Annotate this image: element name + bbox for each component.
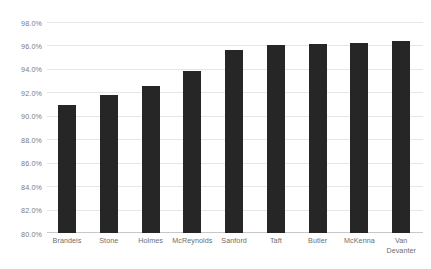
y-tick-label: 82.0% — [2, 206, 42, 215]
bar-slot — [298, 22, 338, 233]
x-tick-line2: Devanter — [373, 246, 429, 256]
bar-taft[interactable] — [267, 45, 285, 233]
y-tick-label: 86.0% — [2, 159, 42, 168]
bar-slot — [381, 22, 421, 233]
bar-slot — [172, 22, 212, 233]
x-tick-line1: McKenna — [344, 236, 375, 245]
y-tick-label: 84.0% — [2, 183, 42, 192]
bar-stone[interactable] — [100, 95, 118, 233]
bar-slot — [89, 22, 129, 233]
bar-slot — [47, 22, 87, 233]
x-tick-line1: Taft — [270, 236, 282, 245]
x-tick-line1: Sanford — [221, 236, 247, 245]
bar-slot — [131, 22, 171, 233]
x-tick-line1: Stone — [99, 236, 118, 245]
y-tick-label: 94.0% — [2, 65, 42, 74]
bar-slot — [256, 22, 296, 233]
x-tick-line1: Holmes — [138, 236, 163, 245]
bar-brandeis[interactable] — [58, 105, 76, 233]
x-tick-line1: Butler — [308, 236, 327, 245]
y-tick-label: 98.0% — [2, 19, 42, 28]
bar-slot — [214, 22, 254, 233]
x-axis: Brandeis Stone Holmes McReynolds Sanford… — [47, 236, 423, 269]
bar-chart: 98.0% 96.0% 94.0% 92.0% 90.0% 88.0% 86.0… — [0, 0, 431, 269]
y-tick-label: 88.0% — [2, 136, 42, 145]
x-tick-line1: Van — [395, 236, 407, 245]
y-tick-label: 96.0% — [2, 42, 42, 51]
bar-holmes[interactable] — [142, 86, 160, 233]
x-tick-line1: Brandeis — [53, 236, 82, 245]
y-tick-label: 90.0% — [2, 112, 42, 121]
y-tick-label: 92.0% — [2, 89, 42, 98]
bars-layer — [47, 22, 423, 233]
bar-slot — [339, 22, 379, 233]
bar-sanford[interactable] — [225, 50, 243, 233]
bar-mcreynolds[interactable] — [183, 71, 201, 233]
bar-van-devanter[interactable] — [392, 41, 410, 233]
y-tick-label: 80.0% — [2, 230, 42, 239]
x-tick-label-van-devanter: Van Devanter — [373, 236, 429, 255]
bar-mckenna[interactable] — [350, 43, 368, 233]
bar-butler[interactable] — [309, 44, 327, 233]
